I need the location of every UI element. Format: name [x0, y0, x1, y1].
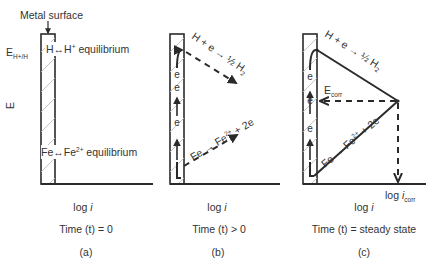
x-axis-label-c: log i — [354, 201, 374, 213]
panel-b: e e e H + e → ½ H2 Fe → Fe2+ + 2e log i … — [170, 30, 280, 258]
cathodic-reaction-label: H + e → ½ H2 — [189, 30, 251, 78]
corrosion-diagram: Metal surface EH+/H E H↔H+ equilibrium F… — [0, 0, 433, 269]
cathodic-reaction-label: H + e → ½ H2 — [322, 28, 385, 74]
metal-surface-label: Metal surface — [20, 9, 83, 21]
caption-a: (a) — [80, 246, 93, 258]
fe-equilibrium-label: Fe↔Fe2+ equilibrium — [41, 146, 137, 158]
potential-h-label: EH+/H — [6, 46, 28, 60]
anodic-reaction-label: Fe → Fe2+ + 2e — [188, 115, 256, 162]
intersection-dot-icon — [396, 99, 399, 102]
electron-label: e — [307, 95, 313, 106]
time-label-c: Time (t) = steady state — [312, 223, 417, 235]
time-label-a: Time (t) = 0 — [59, 223, 113, 235]
electron-label: e — [174, 117, 180, 128]
electron-label: e — [307, 123, 313, 134]
log-icorr-label: log icorr — [385, 189, 416, 203]
time-label-b: Time (t) > 0 — [192, 223, 246, 235]
metal-bar — [41, 34, 55, 184]
panel-a: Metal surface EH+/H E H↔H+ equilibrium F… — [4, 9, 153, 258]
caption-c: (c) — [358, 246, 370, 258]
panel-c: e e e H + e → ½ H2 Fe → Fe2+ + 2e Ecorr … — [303, 28, 426, 258]
h-equilibrium-label: H↔H+ equilibrium — [46, 43, 129, 55]
electron-label: e — [174, 69, 180, 80]
x-axis-label-b: log i — [207, 201, 227, 213]
anodic-reaction-label: Fe → Fe2+ + 2e — [319, 114, 382, 170]
caption-b: (b) — [212, 246, 225, 258]
electron-label: e — [174, 82, 180, 93]
ecorr-label: Ecorr — [324, 84, 343, 98]
y-axis-label: E — [4, 102, 16, 109]
electron-label: e — [307, 71, 313, 82]
x-axis-label-a: log i — [73, 201, 93, 213]
